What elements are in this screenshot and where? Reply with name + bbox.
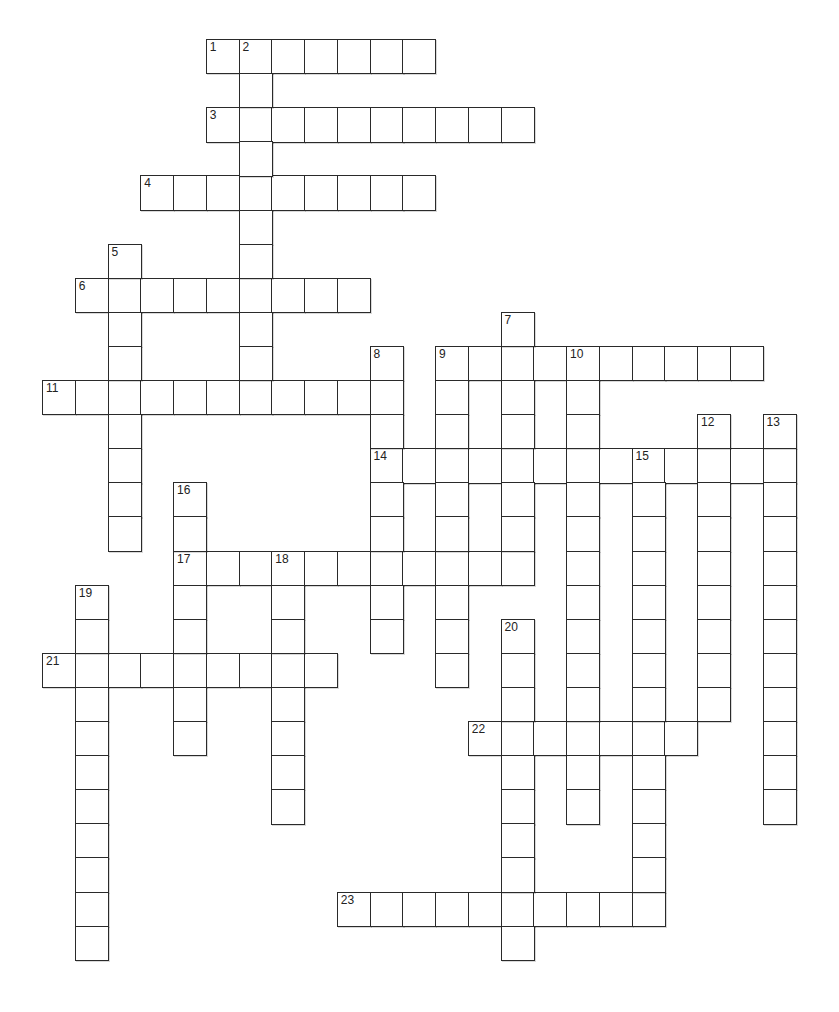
crossword-cell[interactable] — [435, 414, 469, 449]
crossword-cell[interactable] — [566, 687, 600, 722]
letter-input[interactable] — [633, 790, 665, 823]
crossword-cell[interactable] — [632, 619, 666, 654]
letter-input[interactable] — [731, 347, 763, 380]
crossword-cell[interactable]: 22 — [468, 721, 502, 756]
letter-input[interactable] — [174, 381, 206, 414]
crossword-cell[interactable] — [271, 687, 305, 722]
letter-input[interactable] — [272, 722, 304, 755]
crossword-cell[interactable] — [108, 653, 142, 688]
letter-input[interactable] — [174, 279, 206, 312]
letter-input[interactable] — [764, 654, 796, 687]
letter-input[interactable] — [272, 654, 304, 687]
letter-input[interactable] — [633, 586, 665, 619]
crossword-cell[interactable] — [370, 892, 404, 927]
crossword-cell[interactable] — [75, 823, 109, 858]
crossword-cell[interactable] — [108, 516, 142, 551]
crossword-cell[interactable] — [239, 73, 273, 108]
crossword-cell[interactable] — [599, 721, 633, 756]
letter-input[interactable] — [436, 347, 468, 380]
letter-input[interactable] — [305, 381, 337, 414]
crossword-cell[interactable] — [173, 585, 207, 620]
crossword-cell[interactable] — [566, 448, 600, 483]
letter-input[interactable] — [600, 722, 632, 755]
letter-input[interactable] — [764, 620, 796, 653]
letter-input[interactable] — [109, 517, 141, 550]
crossword-cell[interactable] — [108, 448, 142, 483]
letter-input[interactable] — [567, 722, 599, 755]
crossword-cell[interactable]: 13 — [763, 414, 797, 449]
letter-input[interactable] — [698, 415, 730, 448]
crossword-cell[interactable] — [108, 482, 142, 517]
crossword-cell[interactable] — [763, 448, 797, 483]
crossword-cell[interactable] — [304, 39, 338, 74]
crossword-cell[interactable]: 12 — [697, 414, 731, 449]
letter-input[interactable] — [240, 108, 272, 141]
crossword-cell[interactable] — [632, 721, 666, 756]
crossword-cell[interactable] — [632, 551, 666, 586]
letter-input[interactable] — [338, 893, 370, 926]
letter-input[interactable] — [698, 620, 730, 653]
letter-input[interactable] — [109, 313, 141, 346]
crossword-cell[interactable]: 14 — [370, 448, 404, 483]
crossword-cell[interactable] — [533, 892, 567, 927]
letter-input[interactable] — [207, 654, 239, 687]
crossword-cell[interactable] — [370, 39, 404, 74]
crossword-cell[interactable] — [435, 482, 469, 517]
crossword-cell[interactable] — [75, 721, 109, 756]
crossword-cell[interactable]: 7 — [501, 312, 535, 347]
crossword-cell[interactable] — [337, 551, 371, 586]
crossword-cell[interactable] — [533, 448, 567, 483]
letter-input[interactable] — [76, 586, 108, 619]
letter-input[interactable] — [338, 552, 370, 585]
letter-input[interactable] — [338, 40, 370, 73]
crossword-cell[interactable] — [239, 244, 273, 279]
letter-input[interactable] — [436, 654, 468, 687]
crossword-cell[interactable] — [75, 892, 109, 927]
letter-input[interactable] — [567, 756, 599, 789]
crossword-cell[interactable] — [763, 585, 797, 620]
letter-input[interactable] — [240, 313, 272, 346]
letter-input[interactable] — [502, 858, 534, 891]
crossword-cell[interactable]: 9 — [435, 346, 469, 381]
letter-input[interactable] — [534, 722, 566, 755]
letter-input[interactable] — [174, 483, 206, 516]
letter-input[interactable] — [76, 722, 108, 755]
letter-input[interactable] — [109, 449, 141, 482]
letter-input[interactable] — [109, 347, 141, 380]
letter-input[interactable] — [240, 74, 272, 107]
letter-input[interactable] — [272, 688, 304, 721]
crossword-cell[interactable] — [763, 619, 797, 654]
crossword-cell[interactable] — [632, 892, 666, 927]
letter-input[interactable] — [174, 586, 206, 619]
crossword-cell[interactable] — [566, 482, 600, 517]
letter-input[interactable] — [240, 40, 272, 73]
letter-input[interactable] — [764, 586, 796, 619]
letter-input[interactable] — [141, 381, 173, 414]
crossword-cell[interactable] — [632, 857, 666, 892]
crossword-cell[interactable] — [304, 653, 338, 688]
crossword-cell[interactable] — [304, 551, 338, 586]
letter-input[interactable] — [240, 176, 272, 209]
letter-input[interactable] — [567, 586, 599, 619]
crossword-cell[interactable] — [75, 687, 109, 722]
crossword-cell[interactable] — [763, 721, 797, 756]
crossword-cell[interactable]: 16 — [173, 482, 207, 517]
crossword-cell[interactable] — [599, 448, 633, 483]
letter-input[interactable] — [436, 108, 468, 141]
crossword-cell[interactable] — [206, 175, 240, 210]
crossword-cell[interactable] — [566, 789, 600, 824]
letter-input[interactable] — [272, 586, 304, 619]
crossword-cell[interactable] — [239, 551, 273, 586]
crossword-cell[interactable] — [730, 448, 764, 483]
letter-input[interactable] — [764, 449, 796, 482]
crossword-cell[interactable]: 20 — [501, 619, 535, 654]
crossword-cell[interactable] — [664, 448, 698, 483]
letter-input[interactable] — [371, 552, 403, 585]
letter-input[interactable] — [436, 517, 468, 550]
letter-input[interactable] — [698, 688, 730, 721]
letter-input[interactable] — [76, 756, 108, 789]
letter-input[interactable] — [567, 415, 599, 448]
letter-input[interactable] — [600, 893, 632, 926]
crossword-cell[interactable] — [501, 721, 535, 756]
crossword-cell[interactable] — [566, 380, 600, 415]
